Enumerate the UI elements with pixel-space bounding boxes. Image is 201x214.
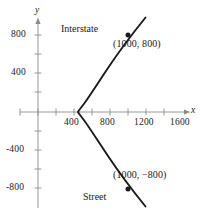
y-tick-label-neg800: -800 [6, 183, 24, 193]
annotation-street: Street [83, 192, 106, 202]
x-tick-label-1200: 1200 [134, 118, 154, 128]
y-axis-label: y [35, 6, 39, 16]
x-axis-label: x [191, 106, 195, 116]
parabola-figure: y x 800 400 -400 -800 400 800 1200 1600 … [0, 0, 201, 214]
y-axis [35, 18, 42, 209]
point-marker-street [126, 187, 131, 192]
x-tick-label-1600: 1600 [170, 118, 190, 128]
y-tick-label-400: 400 [11, 68, 26, 78]
annotation-interstate: Interstate [61, 24, 98, 34]
x-tick-label-400: 400 [64, 118, 79, 128]
y-tick-label-800: 800 [11, 30, 26, 40]
point-label-lower: (1000, −800) [113, 170, 167, 180]
y-tick-label-neg400: -400 [6, 145, 24, 155]
point-marker-interstate [126, 33, 131, 38]
x-axis [20, 109, 191, 116]
x-tick-label-800: 800 [100, 118, 115, 128]
point-label-upper: (1000, 800) [113, 39, 161, 49]
plot-canvas [0, 0, 201, 214]
